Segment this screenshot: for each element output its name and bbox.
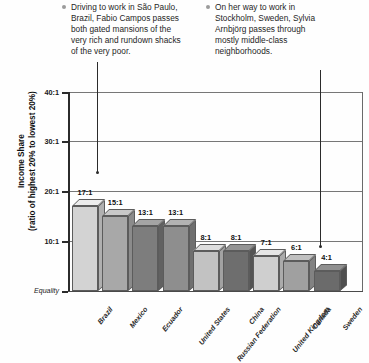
bar-sweden: 4:1 — [314, 271, 340, 291]
bar-mexico: 15:1 — [102, 216, 128, 291]
annotation-sweden-text: On her way to work in Stockholm, Sweden,… — [206, 2, 326, 57]
bar-value-label: 7:1 — [261, 238, 272, 247]
bullet-dot-icon — [62, 5, 66, 9]
annotation-sweden-leader-line — [320, 70, 321, 246]
x-axis-label-united-states: United States — [196, 305, 231, 347]
bar-front-face — [163, 226, 189, 291]
bar-united-states: 13:1 — [163, 226, 189, 291]
bar-value-label: 4:1 — [321, 253, 332, 262]
bar-ecuador: 13:1 — [132, 226, 158, 291]
x-axis-label-ecuador: Ecuador — [160, 305, 185, 333]
bar-side-face — [340, 265, 347, 291]
bar-value-label: 13:1 — [168, 208, 183, 217]
bar-value-label: 8:1 — [231, 233, 242, 242]
annotation-brazil-text: Driving to work in São Paulo, Brazil, Fa… — [62, 2, 186, 57]
bullet-dot-icon — [206, 5, 210, 9]
bar-brazil: 17:1 — [72, 206, 98, 291]
bar-united-kingdom: 7:1 — [253, 256, 279, 291]
x-axis-label-brazil: Brazil — [96, 305, 115, 326]
bar-front-face — [314, 271, 340, 291]
annotation-brazil: Driving to work in São Paulo, Brazil, Fa… — [62, 2, 186, 57]
bar-value-label: 6:1 — [291, 243, 302, 252]
bar-value-label: 17:1 — [78, 188, 93, 197]
bar-front-face — [223, 251, 249, 291]
bar-canada: 6:1 — [283, 261, 309, 291]
bar-front-face — [132, 226, 158, 291]
bar-front-face — [193, 251, 219, 291]
bar-front-face — [72, 206, 98, 291]
bar-front-face — [253, 256, 279, 291]
bar-value-label: 15:1 — [108, 198, 123, 207]
bar-value-label: 8:1 — [200, 233, 211, 242]
bar-front-face — [283, 261, 309, 291]
bar-russian-federation: 8:1 — [193, 251, 219, 291]
x-axis-label-mexico: Mexico — [128, 305, 150, 330]
x-axis-label-sweden: Sweden — [340, 305, 364, 332]
bar-value-label: 13:1 — [138, 208, 153, 217]
annotation-brazil-leader-dot-icon — [96, 171, 99, 174]
bar-china: 8:1 — [223, 251, 249, 291]
annotation-brazil-leader-line — [97, 62, 98, 172]
annotation-sweden: On her way to work in Stockholm, Sweden,… — [206, 2, 326, 57]
bar-front-face — [102, 216, 128, 291]
annotation-sweden-leader-dot-icon — [319, 245, 322, 248]
